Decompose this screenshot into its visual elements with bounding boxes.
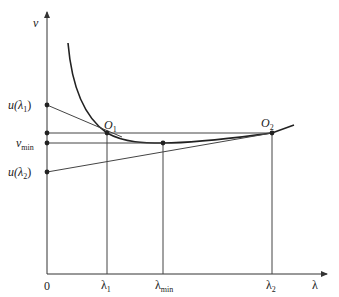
u-lambda2-dot — [45, 170, 50, 175]
x-axis-label: λ — [312, 278, 318, 292]
o-level-dot — [45, 131, 50, 136]
origin-label: 0 — [44, 279, 50, 293]
y-axis-label: v — [33, 16, 39, 30]
x-label-lambda1: λ1 — [101, 278, 111, 294]
u-lambda1-dot — [45, 103, 50, 108]
vmin-dot — [45, 141, 50, 146]
tangent-line-2 — [47, 133, 272, 172]
lambda-min-dot — [161, 141, 166, 146]
point-label-o2: O2 — [261, 116, 274, 132]
x-label-lambda-min: λmin — [155, 278, 173, 294]
diagram-canvas: v λ 0 u(λ1) vmin u(λ2) λ1 λmin λ2 O1 O2 — [0, 0, 339, 297]
y-label-u-lambda2: u(λ2) — [8, 165, 31, 181]
x-label-lambda2: λ2 — [266, 278, 276, 294]
y-label-vmin: vmin — [16, 136, 34, 152]
y-label-u-lambda1: u(λ1) — [8, 98, 31, 114]
point-label-o1: O1 — [104, 118, 117, 134]
